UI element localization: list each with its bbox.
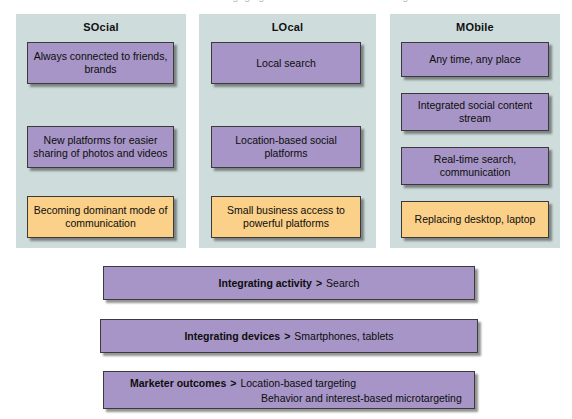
box-social-3[interactable]: Becoming dominant mode of communication [27, 196, 174, 238]
column-panel-mobile: MObile Any time, any place Integrated so… [390, 14, 560, 248]
summary-bar-3-content: Marketer outcomes>Location-based targeti… [104, 377, 474, 404]
box-mobile-3[interactable]: Real-time search, communication [401, 147, 549, 185]
summary-bar-3-arrow-icon: > [226, 377, 240, 389]
summary-bar-1-arrow-icon: > [312, 277, 326, 289]
column-panel-local: LOcal Local search Location-based social… [199, 14, 376, 248]
summary-bar-marketer-outcomes[interactable]: Marketer outcomes>Location-based targeti… [103, 371, 475, 409]
box-local-2[interactable]: Location-based social platforms [211, 126, 361, 168]
column-panel-social: SOcial Always connected to friends, bran… [16, 14, 186, 248]
box-social-1[interactable]: Always connected to friends, brands [27, 42, 174, 84]
summary-bar-3-label: Marketer outcomes [130, 377, 226, 389]
box-local-3[interactable]: Small business access to powerful platfo… [211, 196, 361, 238]
summary-bar-2-content: Integrating devices>Smartphones, tablets [101, 330, 477, 342]
summary-bar-integrating-devices[interactable]: Integrating devices>Smartphones, tablets [100, 319, 478, 353]
box-social-2[interactable]: New platforms for easier sharing of phot… [27, 126, 174, 168]
summary-bar-integrating-activity[interactable]: Integrating activity>Search [103, 266, 475, 300]
summary-bar-3-value: Location-based targeting [240, 377, 356, 389]
summary-bar-1-value: Search [326, 277, 359, 289]
summary-bar-2-arrow-icon: > [280, 330, 294, 342]
column-title-local: LOcal [199, 21, 376, 33]
clipped-caption-artifact: recommendations for engaging in social a… [0, 0, 572, 9]
summary-bar-2-value: Smartphones, tablets [294, 330, 393, 342]
box-mobile-2[interactable]: Integrated social content stream [401, 93, 549, 131]
summary-bar-2-label: Integrating devices [184, 330, 280, 342]
column-title-social: SOcial [16, 21, 186, 33]
summary-bar-3-value-secondary: Behavior and interest-based microtargeti… [130, 389, 474, 404]
box-local-1[interactable]: Local search [211, 42, 361, 84]
clipped-caption-text: recommendations for engaging in social a… [120, 0, 409, 2]
summary-bar-1-label: Integrating activity [219, 277, 312, 289]
summary-bar-1-content: Integrating activity>Search [104, 277, 474, 289]
box-mobile-4[interactable]: Replacing desktop, laptop [401, 201, 549, 238]
box-mobile-1[interactable]: Any time, any place [401, 42, 549, 77]
column-title-mobile: MObile [390, 21, 560, 33]
